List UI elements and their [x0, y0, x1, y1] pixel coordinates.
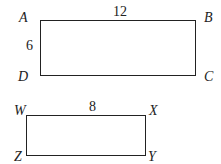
rectangle-wxyz [26, 115, 146, 156]
rectangle-abcd [40, 20, 196, 76]
vertex-d: D [18, 70, 28, 84]
vertex-x: X [149, 104, 158, 118]
vertex-w: W [14, 104, 26, 118]
side-ad-length: 6 [26, 39, 33, 53]
vertex-z: Z [14, 150, 22, 164]
side-wx-length: 8 [89, 100, 96, 114]
vertex-c: C [204, 70, 213, 84]
vertex-y: Y [148, 150, 156, 164]
vertex-a: A [19, 11, 28, 25]
side-ab-length: 12 [113, 5, 127, 19]
vertex-b: B [204, 11, 213, 25]
